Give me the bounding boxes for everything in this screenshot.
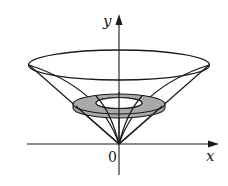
origin-label: 0 [108,149,117,165]
y-axis-arrow-icon [116,14,123,25]
diagram-canvas: y x 0 [0,0,228,186]
x-axis [27,141,219,148]
x-axis-label: x [206,147,215,165]
solid-of-revolution-figure: y x 0 [0,0,228,186]
y-axis-label: y [102,12,112,30]
